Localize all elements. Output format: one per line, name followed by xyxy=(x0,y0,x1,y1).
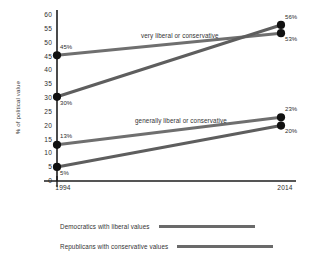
slope-chart: % of political value 60 55 50 45 40 35 3… xyxy=(0,0,317,260)
annotation-very-liberal-or-conservative: very liberal or conservative xyxy=(141,32,219,39)
point-label-democrats-very-1994: 30% xyxy=(60,100,72,106)
legend-label-republicans: Republicans with conservative values xyxy=(60,243,168,250)
annotation-generally-liberal-or-conservative: generally liberal or conservative xyxy=(135,117,227,124)
plot-area: % of political value 60 55 50 45 40 35 3… xyxy=(0,0,317,210)
x-axis-tick-labels: 1994 2014 xyxy=(0,184,317,198)
legend-item-democrats: Democratics with liberal values xyxy=(60,220,255,232)
data-point-marker xyxy=(277,21,285,29)
point-label-democrats-generally-1994: 5% xyxy=(60,170,69,176)
legend-swatch-democrats xyxy=(159,225,255,228)
point-label-republicans-generally-1994: 13% xyxy=(60,133,72,139)
point-label-republicans-very-1994: 45% xyxy=(60,44,72,50)
data-point-marker xyxy=(277,29,285,37)
data-point-marker xyxy=(277,122,285,130)
data-point-marker xyxy=(277,113,285,121)
point-label-republicans-generally-2014: 23% xyxy=(285,106,297,112)
point-label-republicans-very-2014: 53% xyxy=(285,36,297,42)
legend-label-democrats: Democratics with liberal values xyxy=(60,223,150,230)
chart-legend: Democratics with liberal values Republic… xyxy=(0,212,317,260)
legend-swatch-republicans xyxy=(177,245,273,248)
legend-item-republicans: Republicans with conservative values xyxy=(60,240,273,252)
point-label-democrats-generally-2014: 20% xyxy=(285,128,297,134)
x-tick-label-1994: 1994 xyxy=(55,184,70,191)
x-tick-label-2014: 2014 xyxy=(277,184,292,191)
data-point-marker xyxy=(53,51,61,59)
point-label-democrats-very-2014: 56% xyxy=(285,14,297,20)
data-point-marker xyxy=(53,141,61,149)
